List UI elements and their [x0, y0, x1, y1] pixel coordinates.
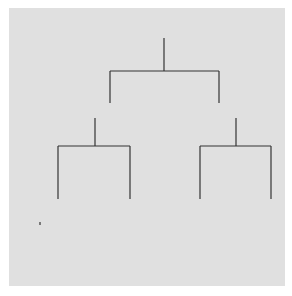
- connector-lines: [40, 38, 271, 225]
- kinship-diagram: [0, 0, 292, 296]
